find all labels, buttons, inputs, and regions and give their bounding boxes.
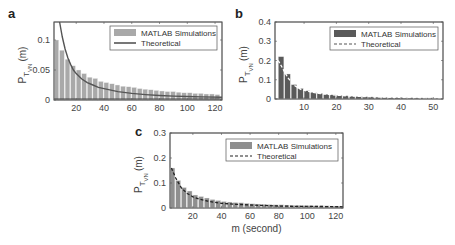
bar xyxy=(115,85,120,100)
legend: MATLAB SimulationsTheoretical xyxy=(330,27,438,50)
x-tick-label: 40 xyxy=(396,102,406,112)
bar xyxy=(210,200,215,209)
legend-label-simulations: MATLAB Simulations xyxy=(141,29,216,38)
x-tick-label: 80 xyxy=(274,211,284,221)
bar xyxy=(82,74,87,100)
x-tick-label: 20 xyxy=(71,103,81,113)
bar xyxy=(204,198,209,208)
y-tick-label: 0.1 xyxy=(37,35,50,45)
bar xyxy=(176,181,181,209)
x-tick-label: 120 xyxy=(208,103,223,113)
y-axis-label: PTVN(m) xyxy=(238,46,254,83)
x-tick-label: 40 xyxy=(99,103,109,113)
legend-swatch-simulations xyxy=(230,142,252,149)
x-tick-label: 80 xyxy=(155,103,165,113)
legend: MATLAB SimulationsTheoretical xyxy=(110,26,217,50)
y-tick-label: 0.2 xyxy=(258,56,271,66)
chart-panel-c: 2040608010012000.10.20.3PTVN(m)m (second… xyxy=(133,128,343,234)
bar xyxy=(317,93,323,99)
chart-panel-b: 102030405000.10.20.30.4PTVN(m)MATLAB Sim… xyxy=(238,17,443,112)
x-tick-label: 20 xyxy=(188,211,198,221)
y-tick-label: 0.3 xyxy=(258,36,271,46)
y-tick-label: 0 xyxy=(45,95,50,105)
bar xyxy=(285,74,291,99)
y-tick-label: 0 xyxy=(266,94,271,104)
legend-swatch-simulations xyxy=(114,29,136,36)
x-tick-label: 30 xyxy=(364,102,374,112)
x-axis-label: m (second) xyxy=(231,223,281,234)
x-tick-label: 100 xyxy=(300,211,315,221)
y-tick-label: 0.05 xyxy=(32,65,50,75)
bar xyxy=(244,203,249,208)
bar xyxy=(239,203,244,208)
bar xyxy=(104,83,109,100)
x-tick-label: 60 xyxy=(245,211,255,221)
y-axis-label: PTVN(m) xyxy=(17,47,33,84)
x-tick-label: 20 xyxy=(331,102,341,112)
x-tick-label: 10 xyxy=(299,102,309,112)
y-tick-label: 0.4 xyxy=(258,17,271,27)
legend-label-simulations: MATLAB Simulations xyxy=(257,142,332,151)
bar xyxy=(110,84,115,100)
y-tick-label: 0.1 xyxy=(153,178,166,188)
legend-swatch-simulations xyxy=(334,30,356,37)
x-tick-label: 60 xyxy=(127,103,137,113)
bar xyxy=(93,78,98,100)
bar xyxy=(233,203,238,209)
bar xyxy=(298,88,304,99)
legend-label-theoretical: Theoretical xyxy=(141,39,181,48)
bar xyxy=(221,202,226,209)
legend-label-theoretical: Theoretical xyxy=(361,40,401,49)
y-tick-label: 0.2 xyxy=(153,153,166,163)
chart-panel-a: 2040608010012000.050.1PTVN(m)MATLAB Simu… xyxy=(17,22,223,113)
bar xyxy=(227,202,232,208)
y-tick-label: 0.3 xyxy=(153,128,166,138)
x-tick-label: 50 xyxy=(428,102,438,112)
x-tick-label: 120 xyxy=(328,211,343,221)
legend: MATLAB SimulationsTheoretical xyxy=(226,139,338,161)
legend-label-theoretical: Theoretical xyxy=(257,152,297,161)
x-tick-label: 100 xyxy=(180,103,195,113)
bar xyxy=(65,59,70,100)
y-tick-label: 0.1 xyxy=(258,75,271,85)
bar xyxy=(98,81,103,100)
bar xyxy=(87,77,92,100)
y-axis-label: PTVN(m) xyxy=(133,156,149,193)
bar xyxy=(60,50,65,100)
x-tick-label: 40 xyxy=(216,211,226,221)
y-tick-label: 0 xyxy=(161,203,166,213)
bar xyxy=(216,201,221,209)
legend-label-simulations: MATLAB Simulations xyxy=(361,30,436,39)
figure-canvas: 2040608010012000.050.1PTVN(m)MATLAB Simu… xyxy=(0,0,455,245)
bar xyxy=(199,197,204,209)
